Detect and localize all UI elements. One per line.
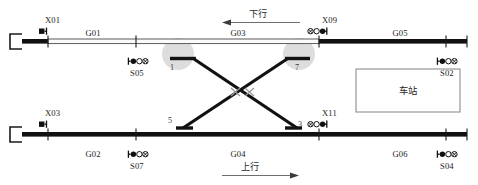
x11-lamp-hollow: [314, 122, 319, 127]
x09-lamp-hollow: [314, 29, 319, 34]
signal-symbol-s02[interactable]: [437, 58, 457, 65]
upper-track-occupied-right: [319, 39, 467, 44]
track-label-g05: G05: [392, 28, 407, 38]
crossover-diagonal-7-to-5: [183, 59, 287, 128]
direction-arrow-left-icon: [222, 20, 231, 26]
signal-symbol-x11[interactable]: [308, 121, 327, 128]
s04-lamp-hollow: [446, 152, 451, 157]
signal-label-x01: X01: [45, 15, 60, 25]
signal-label-x09: X09: [322, 15, 337, 25]
signal-symbol-x03[interactable]: [39, 121, 47, 128]
signal-symbol-s05[interactable]: [128, 58, 148, 65]
track-label-g02: G02: [85, 149, 100, 159]
track-label-g03: G03: [230, 28, 245, 38]
signal-label-s05: S05: [130, 68, 144, 78]
track-label-g06: G06: [392, 149, 408, 159]
crossover-tracks: [170, 59, 310, 129]
signal-label-s04: S04: [440, 161, 454, 171]
s07-lamp-hollow: [137, 152, 142, 157]
signal-symbol-x01[interactable]: [39, 28, 47, 35]
switch-label-3: 3: [298, 120, 302, 129]
crossover-diagonal-1-to-3: [194, 59, 297, 128]
s05-lamp-filled: [131, 59, 136, 64]
track-label-g01: G01: [85, 28, 100, 38]
switch-label-7: 7: [295, 63, 299, 72]
direction-label-downbound: 下行: [249, 8, 267, 19]
lower-left-buffer-bracket: [10, 127, 22, 142]
signal-label-s02: S02: [440, 68, 454, 78]
signal-label-x11: X11: [322, 108, 337, 118]
station-box-label: 车站: [399, 85, 417, 96]
lower-track-line: [10, 127, 467, 142]
x03-lamp-filled: [39, 122, 44, 127]
switch-label-1: 1: [170, 63, 174, 72]
direction-indicator-downbound: 下行: [222, 8, 300, 25]
x01-lamp-filled: [39, 29, 44, 34]
track-layout-diagram: 车站: [0, 0, 478, 185]
s05-lamp-hollow: [137, 59, 142, 64]
direction-indicator-upbound: 上行: [222, 161, 299, 178]
signal-symbol-s07[interactable]: [128, 151, 148, 158]
upper-track-free-run: [48, 39, 319, 44]
x11-lamp-filled: [320, 122, 325, 127]
signal-label-x03: X03: [45, 108, 60, 118]
s04-lamp-filled: [440, 152, 445, 157]
s02-lamp-filled: [440, 59, 445, 64]
upper-track-occupied-left: [22, 39, 48, 44]
switch-label-5: 5: [168, 116, 172, 125]
track-label-g04: G04: [230, 149, 246, 159]
lower-track-occupied-run: [22, 132, 467, 137]
x09-lamp-filled: [320, 29, 325, 34]
signal-label-s07: S07: [130, 161, 144, 171]
signal-symbol-s04[interactable]: [437, 151, 457, 158]
direction-label-upbound: 上行: [241, 161, 259, 172]
diagram-canvas: 车站: [0, 0, 478, 185]
signal-symbol-x09[interactable]: [308, 28, 327, 35]
direction-arrow-right-icon: [290, 173, 299, 179]
s07-lamp-filled: [131, 152, 136, 157]
s02-lamp-hollow: [446, 59, 451, 64]
upper-left-buffer-bracket: [10, 34, 22, 49]
